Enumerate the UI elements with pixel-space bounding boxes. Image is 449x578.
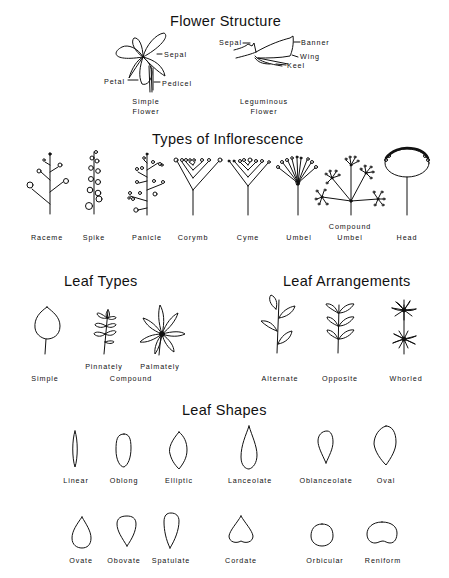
leaf-arrangements-title: Leaf Arrangements — [283, 273, 411, 289]
cordate-label: Cordate — [225, 556, 257, 565]
simple-leaf-label: Simple — [31, 374, 58, 383]
simple-flower-caption-2: Flower — [133, 107, 160, 116]
raceme-label: Raceme — [31, 233, 63, 242]
raceme-drawing — [27, 153, 69, 214]
panicle-drawing — [128, 153, 165, 215]
umbel-label: Umbel — [286, 233, 311, 242]
pinnately-label: Pinnately — [85, 362, 123, 371]
compound-label: Compound — [110, 374, 152, 383]
oval-label: Oval — [377, 476, 395, 485]
legume-banner-label: Banner — [301, 38, 330, 47]
reniform-label: Reniform — [365, 556, 401, 565]
oblanceolate-label: Oblanceolate — [299, 476, 352, 485]
spike-label: Spike — [83, 233, 105, 242]
pinnately-compound-drawing — [94, 310, 116, 354]
orbicular-label: Orbicular — [306, 556, 343, 565]
palmately-label: Palmately — [140, 362, 180, 371]
compound-umbel-label-2: Umbel — [337, 233, 362, 242]
corymb-label: Corymb — [178, 233, 209, 242]
legume-wing-label: Wing — [300, 52, 320, 61]
leaf-types-title: Leaf Types — [64, 273, 138, 289]
lanceolate-label: Lanceolate — [228, 476, 272, 485]
legume-keel-label: Keel — [287, 61, 305, 70]
panicle-label: Panicle — [132, 233, 162, 242]
spike-drawing — [86, 151, 103, 215]
obovate-label: Obovate — [107, 556, 140, 565]
compound-umbel-drawing — [315, 156, 385, 215]
cyme-drawing — [228, 158, 270, 215]
spatulate-label: Spatulate — [152, 556, 190, 565]
leaf-shapes-row2-drawings — [72, 513, 397, 548]
whorled-arrangement-drawing — [392, 300, 416, 354]
leaf-shapes-row1-drawings — [73, 426, 396, 469]
oblong-label: Oblong — [110, 476, 139, 485]
opposite-label: Opposite — [322, 374, 358, 383]
linear-label: Linear — [63, 476, 88, 485]
alternate-arrangement-drawing — [261, 295, 295, 353]
head-label: Head — [397, 233, 418, 242]
simple-pedicel-label: Pedicel — [162, 79, 192, 88]
umbel-drawing — [277, 156, 318, 215]
simple-flower-caption-1: Simple — [132, 97, 159, 106]
leaf-shapes-title: Leaf Shapes — [182, 402, 267, 418]
leguminous-flower-caption-2: Flower — [251, 107, 278, 116]
opposite-arrangement-drawing — [326, 304, 354, 353]
ovate-label: Ovate — [69, 556, 93, 565]
palmately-compound-drawing — [140, 305, 185, 355]
cyme-label: Cyme — [237, 233, 259, 242]
head-drawing — [385, 148, 430, 215]
corymb-drawing — [174, 158, 222, 215]
compound-umbel-label-1: Compound — [329, 222, 371, 231]
leguminous-flower-caption-1: Leguminous — [240, 97, 288, 106]
flower-structure-title: Flower Structure — [170, 13, 281, 29]
alternate-label: Alternate — [262, 374, 299, 383]
inflorescence-title: Types of Inflorescence — [152, 131, 304, 147]
simple-leaf-drawing — [35, 307, 60, 354]
simple-sepal-label: Sepal — [164, 50, 187, 59]
simple-petal-label: Petal — [104, 77, 125, 86]
whorled-label: Whorled — [389, 374, 422, 383]
botanical-line-art — [0, 0, 449, 578]
elliptic-label: Elliptic — [165, 476, 193, 485]
legume-sepal-label: Sepal — [219, 38, 242, 47]
